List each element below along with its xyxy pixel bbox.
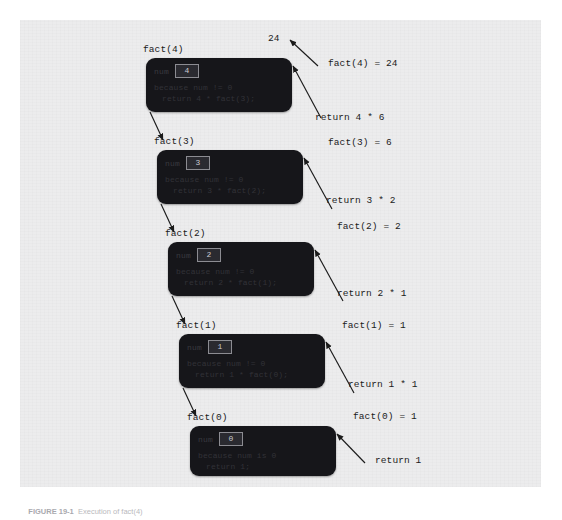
variable-row: num 2: [176, 248, 306, 262]
result-label-fact1: fact(1) = 1: [342, 320, 406, 332]
result-label-fact3: fact(3) = 6: [328, 137, 392, 149]
result-label-fact4: fact(4) = 24: [328, 58, 398, 70]
variable-row: num 1: [187, 340, 317, 354]
return-statement-line: return 3 * fact(2);: [165, 185, 295, 196]
condition-line: because num is 0: [198, 450, 328, 461]
stack-frame-fact3: num 3 because num != 0 return 3 * fact(2…: [157, 150, 303, 204]
variable-value-chip: 4: [175, 64, 199, 78]
variable-value-chip: 3: [186, 156, 210, 170]
result-value-label: 24: [268, 33, 280, 45]
figure-caption-id: FIGURE 19-1: [28, 507, 73, 516]
stack-frame-fact2: num 2 because num != 0 return 2 * fact(1…: [168, 242, 314, 296]
condition-line: because num != 0: [165, 174, 295, 185]
stack-frame-fact0: num 0 because num is 0 return 1;: [190, 426, 336, 476]
call-label-fact4: fact(4): [143, 44, 184, 56]
return-expression-fact1: return 1 * 1: [348, 379, 418, 391]
variable-value-chip: 2: [197, 248, 221, 262]
variable-name-label: num: [165, 158, 180, 169]
condition-line: because num != 0: [187, 358, 317, 369]
stack-frame-fact3-body: num 3 because num != 0 return 3 * fact(2…: [157, 150, 303, 204]
result-label-fact2: fact(2) = 2: [337, 221, 401, 233]
call-label-fact2: fact(2): [165, 228, 206, 240]
result-label-fact0: fact(0) = 1: [353, 411, 417, 423]
return-expression-fact3: return 3 * 2: [326, 195, 396, 207]
variable-name-label: num: [176, 250, 191, 261]
return-expression-fact2: return 2 * 1: [337, 288, 407, 300]
condition-line: because num != 0: [154, 82, 284, 93]
variable-name-label: num: [187, 342, 202, 353]
variable-name-label: num: [154, 66, 169, 77]
figure-caption-text: Execution of fact(4): [78, 507, 143, 516]
stack-frame-fact2-body: num 2 because num != 0 return 2 * fact(1…: [168, 242, 314, 296]
return-statement-line: return 4 * fact(3);: [154, 93, 284, 104]
stack-frame-fact1: num 1 because num != 0 return 1 * fact(0…: [179, 334, 325, 388]
figure-caption: FIGURE 19-1 Execution of fact(4): [20, 497, 540, 520]
stack-frame-fact4: num 4 because num != 0 return 4 * fact(3…: [146, 58, 292, 112]
variable-value-chip: 0: [219, 432, 243, 446]
condition-line: because num != 0: [176, 266, 306, 277]
stack-frame-fact1-body: num 1 because num != 0 return 1 * fact(0…: [179, 334, 325, 388]
variable-row: num 4: [154, 64, 284, 78]
return-expression-fact4: return 4 * 6: [315, 112, 385, 124]
call-label-fact3: fact(3): [154, 136, 195, 148]
return-statement-line: return 1 * fact(0);: [187, 369, 317, 380]
variable-value-chip: 1: [208, 340, 232, 354]
return-statement-line: return 1;: [198, 461, 328, 472]
call-label-fact1: fact(1): [176, 320, 217, 332]
variable-name-label: num: [198, 434, 213, 445]
call-label-fact0: fact(0): [187, 412, 228, 424]
stack-frame-fact0-body: num 0 because num is 0 return 1;: [190, 426, 336, 476]
return-expression-fact0: return 1: [375, 455, 421, 467]
variable-row: num 3: [165, 156, 295, 170]
return-statement-line: return 2 * fact(1);: [176, 277, 306, 288]
variable-row: num 0: [198, 432, 328, 446]
stack-frame-fact4-body: num 4 because num != 0 return 4 * fact(3…: [146, 58, 292, 112]
